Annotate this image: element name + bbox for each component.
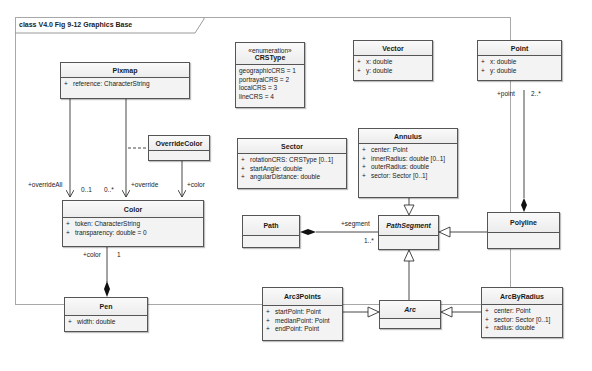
attribute-list: +center: Point +innerRadius: double [0..… bbox=[359, 144, 457, 182]
class-name: Pen bbox=[65, 298, 147, 316]
class-name: Arc bbox=[380, 301, 440, 319]
class-path[interactable]: Path bbox=[242, 215, 300, 248]
class-name: ArcByRadius bbox=[482, 288, 562, 305]
class-name: Point bbox=[478, 41, 561, 56]
class-arcbyradius[interactable]: ArcByRadius +center: Point +sector: Sect… bbox=[481, 287, 563, 338]
class-name: Polyline bbox=[488, 213, 559, 233]
class-point[interactable]: Point +x: double +y: double bbox=[477, 40, 562, 81]
attribute: +medianPoint: Point bbox=[266, 317, 339, 326]
class-polyline[interactable]: Polyline bbox=[487, 212, 560, 249]
class-arc3points[interactable]: Arc3Points +startPoint: Point +medianPoi… bbox=[262, 287, 343, 341]
class-overridecolor[interactable]: OverrideColor bbox=[148, 135, 210, 161]
class-name: Path bbox=[243, 216, 299, 236]
attribute: +sector: Sector [0..1] bbox=[485, 316, 559, 325]
class-name: «enumeration» CRSType bbox=[236, 43, 304, 65]
class-name: PathSegment bbox=[379, 216, 438, 236]
role-pen-color: +color bbox=[83, 251, 101, 258]
class-color[interactable]: Color +token: CharacterString +transpare… bbox=[62, 200, 204, 247]
class-pixmap[interactable]: Pixmap +reference: CharacterString bbox=[60, 62, 190, 99]
attribute-list: +x: double +y: double bbox=[354, 56, 432, 77]
literal: geographicCRS = 1 bbox=[239, 67, 301, 76]
attribute: +startPoint: Point bbox=[266, 308, 339, 317]
role-segment: +segment bbox=[341, 220, 370, 227]
generalization-arrow-annulus bbox=[404, 205, 414, 215]
mult-override: 0..* bbox=[104, 186, 114, 193]
enum-name: CRSType bbox=[236, 54, 304, 61]
literal: portrayalCRS = 2 bbox=[239, 76, 301, 85]
literal-list: geographicCRS = 1 portrayalCRS = 2 local… bbox=[236, 65, 304, 103]
attribute-list: +width: double bbox=[65, 316, 147, 329]
stereotype: «enumeration» bbox=[236, 47, 304, 54]
attribute: +width: double bbox=[68, 318, 144, 327]
class-crstype[interactable]: «enumeration» CRSType geographicCRS = 1 … bbox=[235, 42, 305, 108]
mult-segment: 1..* bbox=[364, 237, 374, 244]
literal: localCRS = 3 bbox=[239, 84, 301, 93]
generalization-arrow-arcbyradius bbox=[441, 307, 452, 317]
attribute: +token: CharacterString bbox=[66, 220, 200, 229]
attribute: +x: double bbox=[357, 58, 429, 67]
attribute: +innerRadius: double [0..1] bbox=[362, 155, 454, 164]
attribute-list: +startPoint: Point +medianPoint: Point +… bbox=[263, 306, 342, 336]
generalization-arrow-arc bbox=[404, 250, 414, 261]
attribute: +reference: CharacterString bbox=[64, 80, 186, 89]
attribute-list: +center: Point +sector: Sector [0..1] +r… bbox=[482, 305, 562, 335]
mult-pen-color: 1 bbox=[117, 251, 121, 258]
class-sector[interactable]: Sector +rotationCRS: CRSType [0..1] +sta… bbox=[237, 138, 347, 189]
class-annulus[interactable]: Annulus +center: Point +innerRadius: dou… bbox=[358, 128, 458, 198]
class-name: Arc3Points bbox=[263, 288, 342, 306]
attribute: +rotationCRS: CRSType [0..1] bbox=[241, 156, 343, 165]
class-name: Vector bbox=[354, 41, 432, 56]
class-name: Color bbox=[63, 201, 203, 218]
generalization-arrow-polyline bbox=[439, 227, 450, 237]
class-pen[interactable]: Pen +width: double bbox=[64, 297, 148, 332]
attribute: +startAngle: double bbox=[241, 165, 343, 174]
attribute: +x: double bbox=[481, 58, 558, 67]
role-override: +override bbox=[131, 181, 158, 188]
class-pathsegment[interactable]: PathSegment bbox=[378, 215, 439, 250]
attribute: +outerRadius: double bbox=[362, 163, 454, 172]
composition-diamond-pen bbox=[104, 281, 110, 297]
frame-title: class V4.0 Fig 9-12 Graphics Base bbox=[16, 18, 144, 32]
role-point: +point bbox=[497, 90, 515, 97]
composition-diamond-polyline bbox=[521, 198, 527, 212]
literal: lineCRS = 4 bbox=[239, 93, 301, 102]
attribute: +sector: Sector [0..1] bbox=[362, 172, 454, 181]
attribute: +endPoint: Point bbox=[266, 325, 339, 334]
composition-diamond-path bbox=[300, 229, 316, 235]
role-color-top: +color bbox=[187, 181, 205, 188]
class-arc[interactable]: Arc bbox=[379, 300, 441, 329]
role-override-all: +overrideAll bbox=[28, 181, 63, 188]
class-name: OverrideColor bbox=[149, 136, 209, 151]
class-name: Annulus bbox=[359, 129, 457, 144]
attribute: +center: Point bbox=[485, 307, 559, 316]
class-name: Sector bbox=[238, 139, 346, 154]
attribute-list: +reference: CharacterString bbox=[61, 78, 189, 91]
attribute: +angularDistance: double bbox=[241, 173, 343, 182]
attribute: +radius: double bbox=[485, 324, 559, 333]
class-vector[interactable]: Vector +x: double +y: double bbox=[353, 40, 433, 81]
attribute: +y: double bbox=[357, 67, 429, 76]
attribute: +center: Point bbox=[362, 146, 454, 155]
attribute: +transparency: double = 0 bbox=[66, 229, 200, 238]
attribute-list: +token: CharacterString +transparency: d… bbox=[63, 218, 203, 239]
attribute-list: +x: double +y: double bbox=[478, 56, 561, 77]
mult-point: 2..* bbox=[531, 90, 541, 97]
attribute: +y: double bbox=[481, 67, 558, 76]
class-name: Pixmap bbox=[61, 63, 189, 78]
attribute-list: +rotationCRS: CRSType [0..1] +startAngle… bbox=[238, 154, 346, 184]
generalization-arrow-arc3points bbox=[368, 307, 379, 317]
mult-override-all: 0..1 bbox=[81, 186, 92, 193]
